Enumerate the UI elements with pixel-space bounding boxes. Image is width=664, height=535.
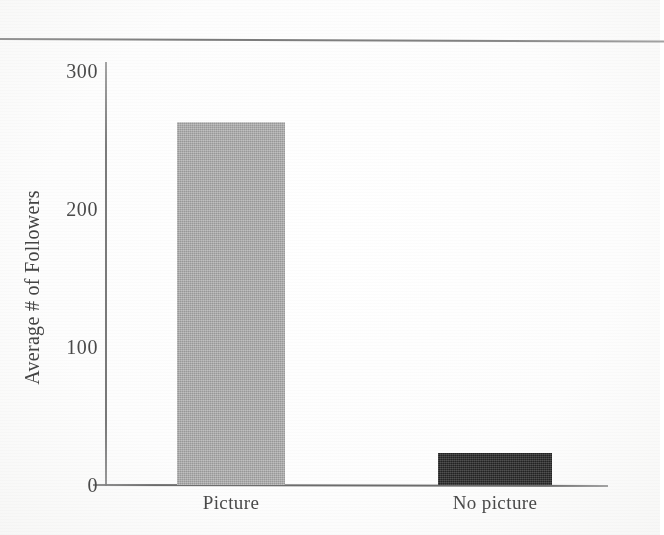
- y-tick-label-200: 200: [0, 199, 105, 219]
- bar-no-picture: [438, 453, 552, 485]
- y-axis-line: [105, 62, 107, 486]
- bar-picture: [177, 122, 285, 485]
- y-axis-title: Average # of Followers: [21, 138, 44, 438]
- x-tick-label-no-picture: No picture: [421, 492, 569, 514]
- y-tick-label-300: 300: [0, 61, 105, 81]
- y-tick-label-100: 100: [0, 337, 105, 357]
- y-tick-label-0: 0: [0, 475, 105, 495]
- x-tick-label-picture: Picture: [160, 492, 302, 514]
